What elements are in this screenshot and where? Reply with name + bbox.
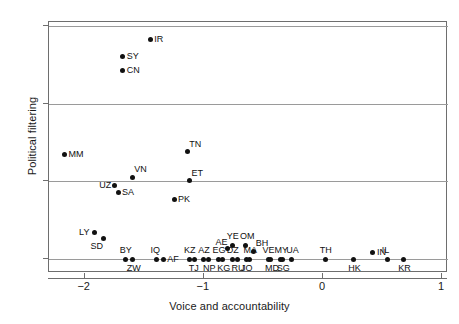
data-point-marker: [148, 37, 153, 42]
data-point-marker: [154, 257, 159, 262]
x-tick-mark: [84, 273, 85, 278]
data-point-marker: [185, 149, 190, 154]
data-point-marker: [235, 257, 240, 262]
y-axis-title: Political filtering: [26, 46, 38, 226]
data-point-marker: [92, 230, 97, 235]
gridline-y: [49, 104, 448, 105]
data-point-label: OM: [240, 232, 255, 241]
data-point-label: LY: [79, 228, 89, 237]
data-point-label: KG: [217, 264, 230, 273]
data-point-marker: [192, 257, 197, 262]
data-point-marker: [112, 183, 117, 188]
data-point-label: VE: [263, 246, 275, 255]
x-tick-label: −1: [183, 281, 223, 292]
data-point-marker: [120, 54, 125, 59]
data-point-marker: [280, 257, 285, 262]
x-tick-label: −2: [64, 281, 104, 292]
data-point-marker: [206, 257, 211, 262]
data-point-label: CN: [127, 66, 140, 75]
data-point-marker: [323, 257, 328, 262]
data-point-marker: [401, 257, 406, 262]
data-point-label: IL: [382, 246, 390, 255]
plot-area: IRSYCNMMTNVNETUZSAPKLYSDAEYEOMBHBYZWIQAF…: [48, 21, 447, 272]
data-point-label: UZ: [99, 181, 111, 190]
data-point-label: SA: [122, 188, 134, 197]
data-point-marker: [130, 257, 135, 262]
x-tick-mark: [441, 273, 442, 278]
data-point-label: MA: [243, 246, 257, 255]
data-point-label: MM: [68, 150, 83, 159]
x-tick-mark: [203, 273, 204, 278]
data-point-marker: [130, 175, 135, 180]
x-axis-line: [48, 278, 447, 279]
data-point-marker: [268, 257, 273, 262]
data-point-label: ET: [192, 169, 204, 178]
data-point-label: IR: [154, 35, 163, 44]
data-point-label: EG: [213, 246, 226, 255]
x-tick-label: 1: [421, 281, 459, 292]
data-point-marker: [385, 257, 390, 262]
data-point-label: SY: [127, 52, 139, 61]
data-point-label: SG: [277, 264, 290, 273]
data-point-marker: [289, 257, 294, 262]
data-point-marker: [123, 257, 128, 262]
data-point-label: JO: [241, 264, 253, 273]
data-point-label: AZ: [198, 246, 210, 255]
data-point-marker: [172, 197, 177, 202]
data-point-marker: [370, 250, 375, 255]
data-point-label: UA: [286, 246, 299, 255]
data-point-label: TJ: [189, 264, 199, 273]
data-point-label: TN: [189, 140, 201, 149]
data-point-label: VN: [134, 165, 147, 174]
x-axis-title: Voice and accountability: [0, 300, 459, 312]
x-tick-mark: [322, 273, 323, 278]
data-point-marker: [101, 236, 106, 241]
data-point-marker: [120, 68, 125, 73]
data-point-label: IQ: [151, 246, 161, 255]
data-point-label: SD: [91, 242, 104, 251]
gridline-y: [49, 26, 448, 27]
data-point-label: ZW: [127, 264, 141, 273]
data-point-marker: [62, 152, 67, 157]
data-point-marker: [161, 257, 166, 262]
data-point-label: HK: [348, 264, 361, 273]
data-point-label: BY: [120, 246, 132, 255]
data-point-marker: [244, 257, 249, 262]
data-point-marker: [220, 257, 225, 262]
data-point-label: YE: [227, 232, 239, 241]
data-point-label: PK: [178, 195, 190, 204]
data-point-label: TH: [320, 246, 332, 255]
data-point-label: AF: [167, 255, 179, 264]
x-tick-label: 0: [302, 281, 342, 292]
scatter-chart-figure: Political filtering Voice and accountabi…: [0, 0, 459, 324]
data-point-label: KZ: [184, 246, 196, 255]
data-point-label: KR: [398, 264, 411, 273]
data-point-marker: [116, 190, 121, 195]
data-point-marker: [351, 257, 356, 262]
data-point-label: DZ: [227, 246, 239, 255]
data-point-label: NP: [203, 264, 216, 273]
